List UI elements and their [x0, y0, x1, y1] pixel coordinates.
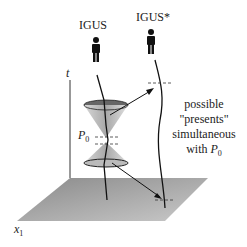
space-plane — [17, 178, 208, 221]
igus-label: IGUS — [79, 18, 107, 33]
x1-axis-label: x1 — [14, 222, 23, 238]
igus-person-icon — [92, 37, 100, 62]
t-axis-label: t — [66, 66, 69, 81]
igus-star-label: IGUS* — [136, 10, 170, 25]
p0-label: P0 — [78, 128, 89, 144]
igus-star-person-icon — [147, 29, 155, 54]
possible-presents-annotation: possible "presents" simultaneous with P0 — [165, 97, 243, 161]
